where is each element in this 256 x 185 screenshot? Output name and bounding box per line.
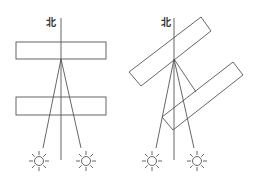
north-label-left: 北 xyxy=(46,16,56,28)
sun-icon xyxy=(142,151,162,171)
north-label-right: 北 xyxy=(161,16,171,28)
sun-icon xyxy=(187,151,207,171)
left-panel: 北 xyxy=(16,16,106,171)
right-panel: 北 xyxy=(129,16,243,171)
sun-icon xyxy=(29,151,49,171)
sun-icon xyxy=(76,151,96,171)
sunlight-spacing-diagram: 北 北 xyxy=(0,0,256,185)
